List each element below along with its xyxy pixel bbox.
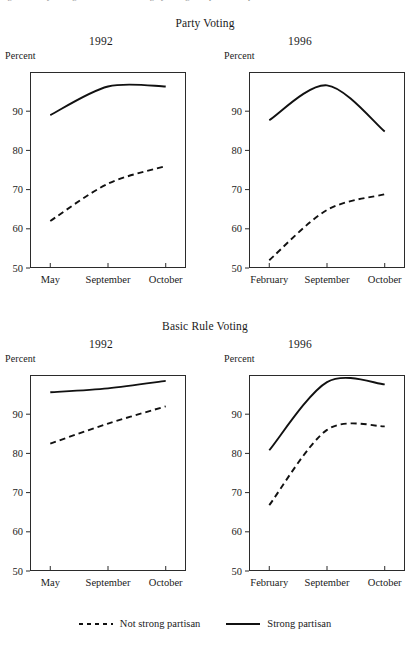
chart-panel-party-voting-1992: 5060708090MaySeptemberOctober <box>0 66 191 288</box>
legend-label-strong-partisan: Strong partisan <box>267 618 331 629</box>
y-tick-label: 90 <box>13 106 24 117</box>
x-tick-label: May <box>41 274 61 285</box>
x-tick-label: October <box>368 274 402 285</box>
y-axis-label-party-1996: Percent <box>224 50 255 61</box>
y-tick-label: 50 <box>232 263 243 274</box>
y-tick-label: 50 <box>232 566 243 577</box>
legend-solid-line-icon <box>226 619 260 629</box>
series-line-not-strong-partisan <box>269 194 384 260</box>
legend-dashed-line-icon <box>79 619 113 629</box>
figure-legend: Not strong partisan Strong partisan <box>0 618 410 629</box>
series-line-strong-partisan <box>269 378 384 450</box>
series-line-strong-partisan <box>50 381 165 392</box>
y-tick-label: 60 <box>232 526 243 537</box>
y-tick-label: 70 <box>232 487 243 498</box>
y-tick-label: 70 <box>13 184 24 195</box>
y-axis-label-basic-1992: Percent <box>5 353 36 364</box>
x-tick-label: September <box>86 577 131 588</box>
panel-year-party-1996: 1996 <box>265 35 335 47</box>
figure-caption-sliver: Figure 1 Party voting and basic rule vot… <box>0 0 410 3</box>
y-tick-label: 70 <box>232 184 243 195</box>
chart-panel-basic-rule-voting-1996: 5060708090FebruarySeptemberOctober <box>219 369 410 591</box>
y-tick-label: 90 <box>232 409 243 420</box>
series-line-strong-partisan <box>269 85 384 131</box>
x-tick-label: February <box>250 274 289 285</box>
y-axis-label-party-1992: Percent <box>5 50 36 61</box>
series-line-not-strong-partisan <box>269 423 384 505</box>
chart-panel-party-voting-1996: 5060708090FebruarySeptemberOctober <box>219 66 410 288</box>
x-tick-label: May <box>41 577 61 588</box>
y-tick-label: 60 <box>13 223 24 234</box>
panel-year-basic-1992: 1992 <box>66 338 136 350</box>
y-tick-label: 70 <box>13 487 24 498</box>
x-tick-label: October <box>149 577 183 588</box>
x-tick-label: September <box>305 577 350 588</box>
series-line-not-strong-partisan <box>50 406 165 443</box>
y-tick-label: 80 <box>13 448 24 459</box>
series-line-strong-partisan <box>50 84 165 115</box>
y-tick-label: 50 <box>13 566 24 577</box>
y-tick-label: 80 <box>13 145 24 156</box>
legend-item-not-strong-partisan: Not strong partisan <box>79 618 201 629</box>
panel-year-basic-1996: 1996 <box>265 338 335 350</box>
x-tick-label: September <box>86 274 131 285</box>
figure-root: Figure 1 Party voting and basic rule vot… <box>0 0 410 645</box>
y-tick-label: 90 <box>13 409 24 420</box>
y-axis-label-basic-1996: Percent <box>224 353 255 364</box>
y-tick-label: 60 <box>232 223 243 234</box>
x-tick-label: September <box>305 274 350 285</box>
section-title-party-voting: Party Voting <box>0 17 410 29</box>
legend-label-not-strong-partisan: Not strong partisan <box>120 618 201 629</box>
x-tick-label: February <box>250 577 289 588</box>
x-tick-label: October <box>368 577 402 588</box>
y-tick-label: 60 <box>13 526 24 537</box>
chart-panel-basic-rule-voting-1992: 5060708090MaySeptemberOctober <box>0 369 191 591</box>
section-title-basic-rule-voting: Basic Rule Voting <box>0 320 410 332</box>
y-tick-label: 80 <box>232 145 243 156</box>
y-tick-label: 50 <box>13 263 24 274</box>
y-tick-label: 90 <box>232 106 243 117</box>
panel-year-party-1992: 1992 <box>66 35 136 47</box>
legend-item-strong-partisan: Strong partisan <box>226 618 331 629</box>
y-tick-label: 80 <box>232 448 243 459</box>
series-line-not-strong-partisan <box>50 166 165 221</box>
x-tick-label: October <box>149 274 183 285</box>
